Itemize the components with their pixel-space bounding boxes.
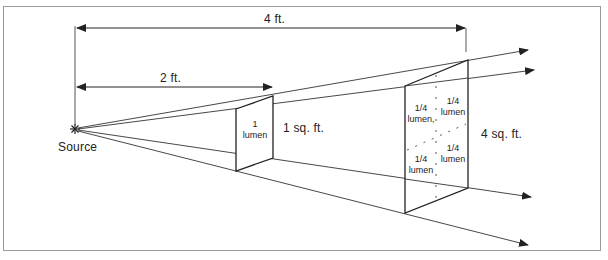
near-flux-unit: lumen — [238, 130, 272, 141]
distance-label-4ft: 4 ft. — [264, 12, 285, 26]
far-quadrant-bottom-left: 1/4 lumen — [407, 154, 435, 176]
far-surface-area: 4 sq. ft. — [481, 127, 522, 141]
distance-label-2ft: 2 ft. — [160, 71, 181, 85]
light-source-icon — [70, 124, 80, 134]
near-flux-value: 1 — [238, 119, 272, 130]
source-label: Source — [58, 140, 97, 154]
far-quadrant-top-right: 1/4 lumen — [438, 96, 468, 118]
far-quadrant-top-left: 1/4 lumen, — [407, 103, 435, 125]
near-surface-area: 1 sq. ft. — [283, 121, 324, 135]
far-surface-panel — [405, 60, 468, 213]
far-quadrant-bottom-right: 1/4 lumen — [438, 143, 468, 165]
near-surface-flux: 1 lumen — [238, 119, 272, 141]
